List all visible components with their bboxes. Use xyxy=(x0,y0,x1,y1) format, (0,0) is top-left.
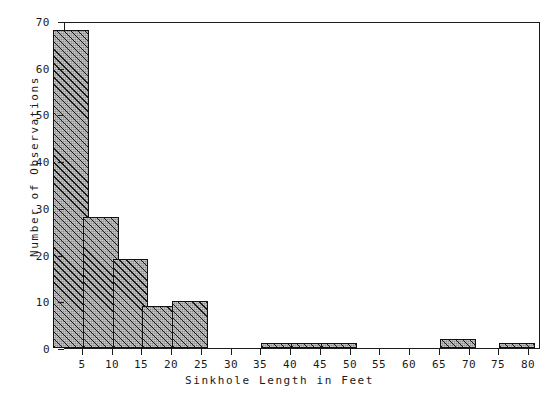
x-tick-label: 40 xyxy=(275,359,305,370)
bar xyxy=(172,301,208,348)
x-tick-mark xyxy=(141,349,142,355)
x-tick-mark xyxy=(171,349,172,355)
x-tick-label: 20 xyxy=(156,359,186,370)
histogram-figure: 010203040506070 510152025303540455055606… xyxy=(0,0,559,399)
x-tick-mark xyxy=(409,349,410,355)
x-tick-mark xyxy=(201,349,202,355)
x-tick-mark xyxy=(379,349,380,355)
y-tick-mark xyxy=(58,302,64,303)
x-tick-mark xyxy=(231,349,232,355)
x-tick-mark xyxy=(320,349,321,355)
plot-area xyxy=(64,22,540,349)
x-tick-label: 5 xyxy=(67,359,97,370)
x-tick-mark xyxy=(439,349,440,355)
x-tick-label: 10 xyxy=(97,359,127,370)
y-tick-mark xyxy=(58,209,64,210)
x-tick-label: 30 xyxy=(216,359,246,370)
y-axis-title: Number of Observations xyxy=(28,37,41,297)
x-tick-label: 50 xyxy=(335,359,365,370)
x-tick-label: 65 xyxy=(424,359,454,370)
bars-layer xyxy=(65,23,539,348)
y-tick-mark xyxy=(58,349,64,350)
x-tick-mark xyxy=(260,349,261,355)
x-tick-mark xyxy=(82,349,83,355)
x-tick-label: 70 xyxy=(454,359,484,370)
x-tick-mark xyxy=(112,349,113,355)
y-tick-label: 0 xyxy=(10,344,50,355)
x-tick-label: 80 xyxy=(513,359,543,370)
y-tick-mark xyxy=(58,256,64,257)
x-tick-mark xyxy=(350,349,351,355)
y-tick-label: 10 xyxy=(10,297,50,308)
x-tick-label: 25 xyxy=(186,359,216,370)
y-tick-mark xyxy=(58,115,64,116)
x-tick-label: 75 xyxy=(483,359,513,370)
x-tick-label: 35 xyxy=(245,359,275,370)
x-tick-label: 55 xyxy=(364,359,394,370)
bar xyxy=(440,339,476,348)
x-tick-label: 15 xyxy=(126,359,156,370)
y-tick-label: 70 xyxy=(10,17,50,28)
x-tick-mark xyxy=(290,349,291,355)
bar xyxy=(321,343,357,348)
y-tick-mark xyxy=(58,69,64,70)
x-tick-label: 45 xyxy=(305,359,335,370)
x-axis-title: Sinkhole Length in Feet xyxy=(0,374,559,387)
x-tick-label: 60 xyxy=(394,359,424,370)
x-tick-mark xyxy=(528,349,529,355)
y-tick-mark xyxy=(58,162,64,163)
x-tick-mark xyxy=(469,349,470,355)
y-tick-mark xyxy=(58,22,64,23)
bar xyxy=(499,343,535,348)
x-tick-mark xyxy=(498,349,499,355)
